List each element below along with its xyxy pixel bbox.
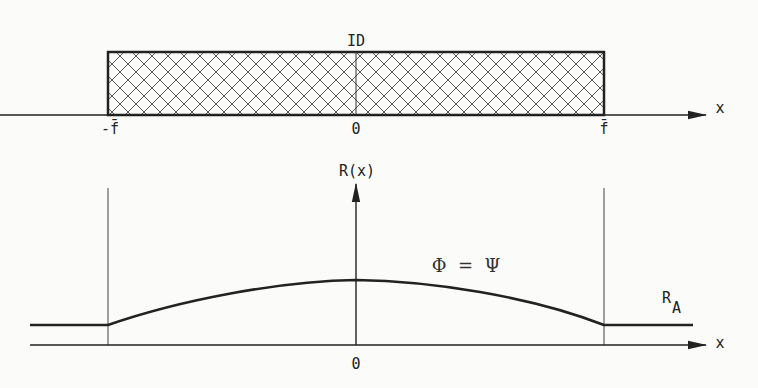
asymptote-symbol: R <box>662 289 672 307</box>
tick-fbar: f̄ <box>599 119 608 138</box>
top-panel: ID x -f̄ 0 f̄ <box>0 32 725 138</box>
r-curve <box>30 280 693 325</box>
asymptote-subscript: A <box>672 299 681 317</box>
origin-label: 0 <box>351 355 360 373</box>
tick-neg-fbar: -f̄ <box>101 119 119 138</box>
bottom-panel: R(x) x 0 Φ = Ψ RA <box>30 162 725 373</box>
region-label: ID <box>347 32 365 50</box>
diagram-canvas: ID x -f̄ 0 f̄ R(x) x 0 Φ = Ψ RA <box>0 0 758 388</box>
tick-zero: 0 <box>351 120 360 138</box>
equation-label: Φ = Ψ <box>432 255 501 276</box>
y-axis-label: R(x) <box>339 162 375 180</box>
asymptote-label: RA <box>662 289 681 317</box>
bottom-x-axis-label: x <box>715 334 724 352</box>
top-x-axis-label: x <box>715 99 724 117</box>
